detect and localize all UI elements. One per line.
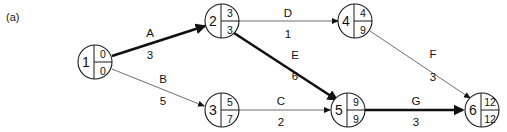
node-5[interactable]: 599 (331, 93, 365, 127)
edge-b (112, 69, 204, 106)
network-diagram-canvas: 10023335744959961212 A3B5D1E6C2F3G3 (0, 0, 507, 132)
node-3[interactable]: 357 (205, 93, 239, 127)
node-late-time-3: 7 (227, 113, 233, 125)
edge-label-b: B (159, 73, 167, 85)
node-early-time-2: 3 (227, 7, 233, 19)
edge-label-c: C (277, 95, 285, 107)
edge-duration-c: 2 (278, 116, 284, 128)
node-id-1: 1 (82, 54, 90, 70)
node-early-time-1: 0 (100, 48, 106, 60)
node-late-time-4: 9 (360, 24, 366, 36)
nodes-layer: 10023335744959961212 (78, 4, 499, 127)
edge-f (370, 31, 470, 98)
edge-duration-a: 3 (147, 49, 153, 61)
node-late-time-1: 0 (100, 65, 106, 77)
node-6[interactable]: 61212 (465, 93, 499, 127)
edge-label-d: D (284, 7, 292, 19)
edge-e (234, 33, 337, 100)
edge-label-g: G (412, 95, 421, 107)
edge-duration-b: 5 (160, 95, 166, 107)
node-4[interactable]: 449 (338, 4, 372, 38)
node-early-time-4: 4 (360, 7, 366, 19)
edge-label-f: F (429, 48, 436, 60)
node-2[interactable]: 233 (205, 4, 239, 38)
node-early-time-3: 5 (227, 96, 233, 108)
node-id-2: 2 (209, 13, 217, 29)
node-id-4: 4 (342, 13, 350, 29)
network-diagram-figure: (a) 10023335744959961212 A3B5D1E6C2F3G3 (0, 0, 507, 132)
node-late-time-2: 3 (227, 24, 233, 36)
node-id-6: 6 (469, 102, 477, 118)
node-id-5: 5 (335, 102, 343, 118)
edge-duration-g: 3 (413, 116, 419, 128)
node-late-time-5: 9 (353, 113, 359, 125)
edge-duration-e: 6 (292, 70, 298, 82)
edge-a (112, 26, 205, 56)
node-1[interactable]: 100 (78, 45, 112, 79)
edge-label-e: E (291, 49, 299, 61)
node-late-time-6: 12 (484, 113, 496, 125)
edge-duration-d: 1 (285, 28, 291, 40)
node-id-3: 3 (209, 102, 217, 118)
node-early-time-6: 12 (484, 96, 496, 108)
edge-label-a: A (146, 27, 154, 39)
node-early-time-5: 9 (353, 96, 359, 108)
edge-duration-f: 3 (430, 71, 436, 83)
